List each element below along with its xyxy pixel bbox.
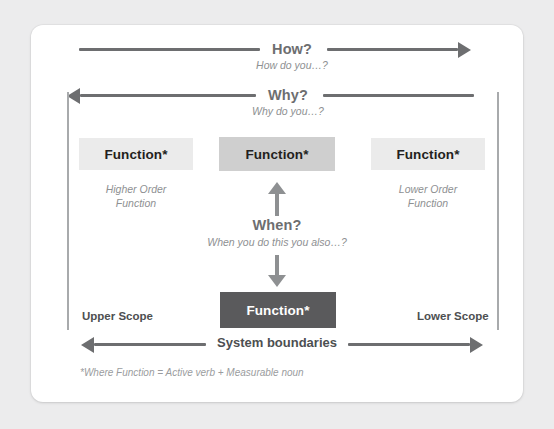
system-boundaries-label: System boundaries	[212, 335, 342, 350]
function-box-higher-order[interactable]: Function*	[79, 138, 193, 170]
function-box-center-label: Function*	[245, 147, 308, 162]
function-box-lower-order-label: Function*	[396, 147, 459, 162]
when-sublabel: When you do this you also…?	[192, 236, 362, 248]
footnote: *Where Function = Active verb + Measurab…	[80, 367, 304, 378]
when-label: When?	[237, 217, 317, 233]
system-boundaries-arrow-left-shaft	[94, 343, 206, 346]
upper-scope-label: Upper Scope	[82, 310, 153, 322]
how-arrow-head-icon	[458, 42, 471, 58]
diagram-card: How? How do you…? Why? Why do you…? Func…	[31, 25, 523, 402]
why-arrow-right-shaft	[323, 94, 474, 97]
boundary-line-right	[497, 92, 499, 330]
why-arrow-left-shaft	[80, 94, 256, 97]
when-arrow-up-head-icon	[268, 182, 286, 194]
why-sublabel: Why do you…?	[228, 105, 348, 117]
when-arrow-down-head-icon	[268, 275, 286, 287]
why-label: Why?	[256, 87, 320, 103]
when-arrow-up-shaft	[275, 194, 279, 216]
lower-order-note: Lower Order Function	[371, 183, 485, 210]
system-boundaries-arrow-left-head-icon	[81, 337, 94, 353]
boundary-line-left	[67, 92, 69, 330]
higher-order-note: Higher Order Function	[79, 183, 193, 210]
when-arrow-down-shaft	[275, 255, 279, 275]
how-arrow-left-shaft	[79, 48, 260, 51]
function-box-lower-order[interactable]: Function*	[371, 138, 485, 170]
system-boundaries-arrow-right-head-icon	[470, 337, 483, 353]
function-box-sub-function[interactable]: Function*	[220, 292, 336, 328]
how-arrow-right-shaft	[327, 48, 458, 51]
how-label: How?	[260, 41, 324, 57]
function-box-higher-order-label: Function*	[104, 147, 167, 162]
system-boundaries-arrow-right-shaft	[348, 343, 470, 346]
function-box-sub-function-label: Function*	[246, 303, 309, 318]
why-arrow-head-icon	[67, 88, 80, 104]
function-box-center[interactable]: Function*	[219, 137, 335, 171]
how-sublabel: How do you…?	[232, 59, 352, 71]
lower-scope-label: Lower Scope	[417, 310, 489, 322]
